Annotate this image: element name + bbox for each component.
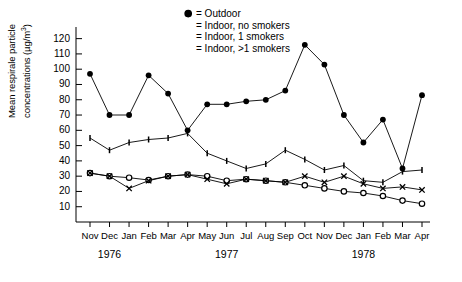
series-line bbox=[90, 45, 422, 169]
data-point-open-circle bbox=[322, 186, 327, 191]
data-point-filled-circle bbox=[341, 112, 347, 118]
data-point-filled-circle bbox=[400, 166, 406, 172]
y-tick-label: 10 bbox=[44, 202, 70, 212]
y-tick-label: 20 bbox=[44, 186, 70, 196]
data-point-cross bbox=[302, 174, 307, 179]
y-tick-label: 100 bbox=[44, 64, 70, 74]
data-point-filled-circle bbox=[224, 101, 230, 107]
data-point-filled-circle bbox=[380, 117, 386, 123]
axis-lines bbox=[76, 27, 430, 222]
data-point-open-circle bbox=[341, 189, 346, 194]
year-label: 1976 bbox=[90, 249, 130, 260]
y-tick-label: 60 bbox=[44, 125, 70, 135]
data-point-filled-circle bbox=[322, 62, 328, 68]
data-point-open-circle bbox=[361, 190, 366, 195]
y-tick-label: 110 bbox=[44, 49, 70, 59]
data-point-filled-circle bbox=[126, 112, 132, 118]
y-tick-label: 30 bbox=[44, 171, 70, 181]
data-point-filled-circle bbox=[185, 127, 191, 133]
data-point-cross bbox=[322, 180, 327, 185]
data-point-filled-circle bbox=[165, 91, 171, 97]
y-tick-label: 80 bbox=[44, 95, 70, 105]
data-point-open-circle bbox=[400, 198, 405, 203]
y-tick-label: 70 bbox=[44, 110, 70, 120]
y-tick-label: 90 bbox=[44, 79, 70, 89]
x-tick-label: Apr bbox=[409, 231, 435, 241]
data-point-filled-circle bbox=[87, 71, 93, 77]
y-tick-label: 120 bbox=[44, 34, 70, 44]
data-point-open-circle bbox=[126, 175, 131, 180]
year-label: 1978 bbox=[343, 249, 383, 260]
data-point-open-circle bbox=[302, 183, 307, 188]
data-point-filled-circle bbox=[361, 140, 367, 146]
data-point-filled-circle bbox=[204, 101, 210, 107]
data-point-filled-circle bbox=[107, 112, 113, 118]
data-point-cross bbox=[341, 174, 346, 179]
data-point-open-circle bbox=[419, 201, 424, 206]
data-series-tick bbox=[90, 130, 422, 185]
data-point-filled-circle bbox=[282, 88, 288, 94]
data-point-filled-circle bbox=[302, 42, 308, 48]
data-point-filled-circle bbox=[146, 72, 152, 78]
data-point-filled-circle bbox=[419, 92, 425, 98]
y-tick-label: 40 bbox=[44, 156, 70, 166]
year-label: 1977 bbox=[207, 249, 247, 260]
data-point-open-circle bbox=[380, 193, 385, 198]
chart-figure: Mean respirale particle concentrations (… bbox=[0, 0, 462, 282]
series-line bbox=[90, 173, 422, 204]
y-tick-label: 50 bbox=[44, 141, 70, 151]
data-point-filled-circle bbox=[263, 97, 269, 103]
data-point-filled-circle bbox=[243, 98, 249, 104]
data-point-cross bbox=[126, 186, 131, 191]
series-line bbox=[90, 133, 422, 182]
data-series-open-circle bbox=[87, 170, 424, 206]
data-series-filled-circle bbox=[87, 42, 425, 172]
